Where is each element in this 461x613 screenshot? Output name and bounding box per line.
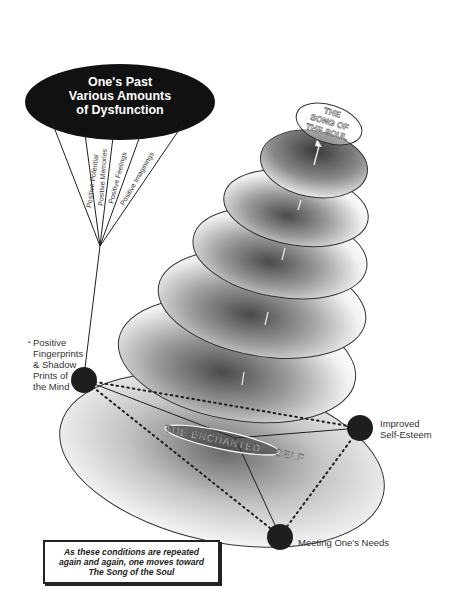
mind-line-1: Positive (33, 337, 66, 348)
mind-line-3: & Shadow (33, 359, 76, 370)
caption-line-2: again and again, one moves toward (59, 557, 204, 567)
caption-line-1: As these conditions are repeated (59, 547, 204, 557)
node-needs (267, 524, 293, 550)
caption-line-3: The Song of the Soul (59, 567, 204, 577)
past-line-2: Various Amounts (69, 89, 171, 103)
mind-line-5: the Mind (33, 381, 69, 392)
diagram-svg: THE SONG OF THE SOUL One's Past Various … (0, 0, 461, 613)
label-esteem: Improved Self-Esteem (380, 418, 432, 440)
bullet-mark: ▪ (28, 339, 30, 345)
diagram-canvas: THE SONG OF THE SOUL One's Past Various … (0, 0, 461, 613)
past-line-1: One's Past (88, 75, 153, 89)
esteem-line-1: Improved (380, 418, 420, 429)
label-needs: Meeting One's Needs (298, 537, 389, 548)
esteem-line-2: Self-Esteem (380, 429, 432, 440)
node-mind (71, 367, 97, 393)
mind-line-4: Prints of (33, 370, 68, 381)
past-line-3: of Dysfunction (76, 103, 164, 117)
past-dysfunction-ellipse: One's Past Various Amounts of Dysfunctio… (25, 64, 215, 140)
node-esteem (347, 415, 373, 441)
fan-labels: Positive Potential Positive Memories Pos… (85, 148, 156, 208)
caption-box: As these conditions are repeated again a… (43, 540, 220, 584)
needs-text: Meeting One's Needs (298, 537, 389, 548)
mind-line-2: Fingerprints (33, 348, 83, 359)
